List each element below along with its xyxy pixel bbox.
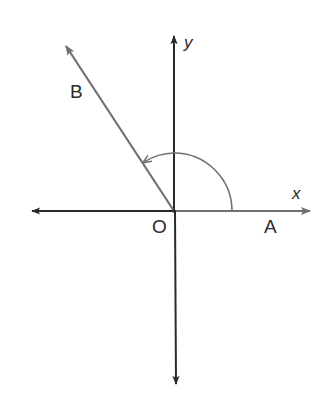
y-axis-label: y xyxy=(183,33,194,52)
rotation-arc xyxy=(144,153,232,211)
y-axis-negative xyxy=(175,211,176,384)
ray-ob xyxy=(66,46,174,211)
x-axis-label: x xyxy=(291,184,301,203)
origin-point xyxy=(172,209,176,213)
origin-label: O xyxy=(152,216,167,237)
angle-diagram: y x O A B xyxy=(0,0,332,414)
point-b-label: B xyxy=(70,81,83,102)
point-a-label: A xyxy=(264,216,277,237)
